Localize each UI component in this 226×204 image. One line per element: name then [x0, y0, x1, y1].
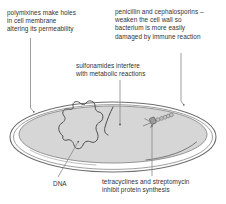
leader-line-penicillin [181, 53, 185, 106]
diagram-canvas: polymixines make holes in cell membrane … [0, 0, 226, 204]
label-sulfonamides: sulfonamides interfere with metabolic re… [76, 62, 178, 78]
cell-membrane-group [19, 106, 207, 163]
cytoplasm-fill [19, 106, 207, 163]
label-tetracyclines: tetracyclines and streptomycin inhibit p… [102, 178, 226, 194]
leader-line-polymixines [31, 38, 35, 113]
label-penicillin: penicillin and cephalosporins – weaken t… [115, 8, 225, 41]
label-polymixines: polymixines make holes in cell membrane … [7, 9, 107, 34]
label-dna: DNA [53, 180, 83, 188]
